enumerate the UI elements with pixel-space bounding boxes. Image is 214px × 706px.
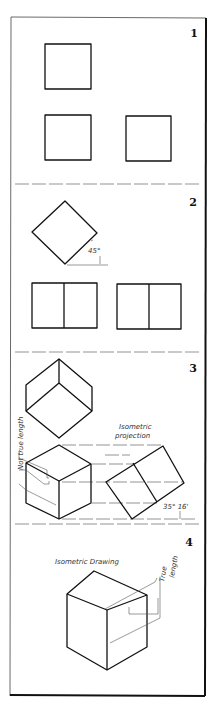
hexagon-inner-edge [26,383,59,411]
panel-1: 1 [45,27,198,161]
cube-top-edges [26,463,91,481]
isometric-drawing-label: Isometric Drawing [55,558,119,566]
panel-2: 2 45° [32,196,197,329]
angle-label-45: 45° [88,247,100,255]
hexagon-inner-edges [59,359,92,411]
side-view-square [126,116,171,161]
panel-number-1: 1 [190,27,198,40]
angle-arrow [91,240,93,241]
angle-label-35-16: 35° 16' [163,503,189,511]
top-view-square [45,44,91,89]
leader-line [19,470,49,484]
isometric-projection-label: Isometric [119,423,152,431]
leader-line [19,484,56,505]
tilted-side-view-edge [133,463,157,502]
front-view-square [45,115,91,160]
true-length-label: True [158,566,169,583]
panel-number-2: 2 [189,196,197,209]
isometric-cube-diagram: 1 2 45° 3 Not true length Isometric proj… [0,0,214,706]
panel-4: 4 Isometric Drawing True length [55,536,193,670]
true-length-label-2: length [168,555,180,578]
panel-number-3: 3 [189,362,197,375]
panel-number-4: 4 [185,536,193,549]
leader-line [105,578,157,609]
frame [10,17,206,696]
panel-3: 3 Not true length Isometric projection 3… [17,359,197,519]
not-true-length-label: Not true length [17,417,25,470]
isometric-projection-label-2: projection [114,432,150,440]
